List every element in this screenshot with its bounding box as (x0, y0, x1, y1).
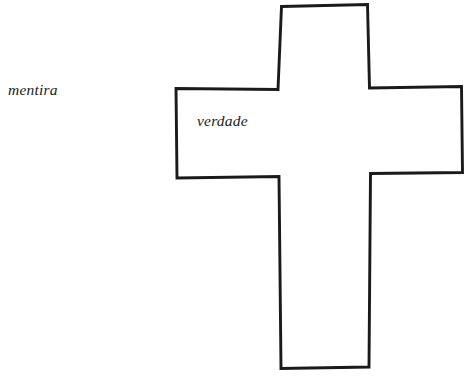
cross-outline-icon (0, 0, 474, 377)
label-verdade: verdade (197, 112, 248, 130)
diagram-canvas: mentira verdade (0, 0, 474, 377)
label-mentira: mentira (8, 81, 58, 99)
cross-path (176, 5, 463, 369)
